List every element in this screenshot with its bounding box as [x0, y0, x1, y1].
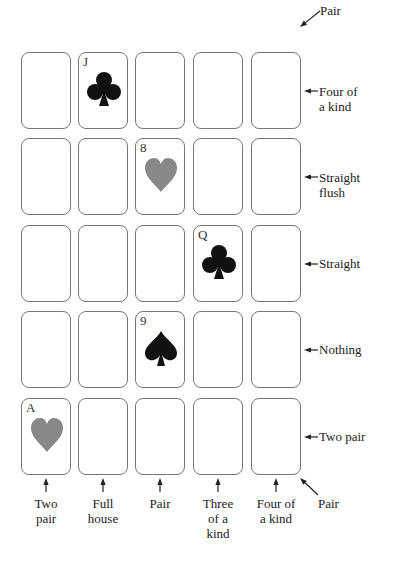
diagonal-label-bottom: Pair — [318, 496, 339, 511]
arrow-diagonal-icon — [0, 0, 393, 570]
